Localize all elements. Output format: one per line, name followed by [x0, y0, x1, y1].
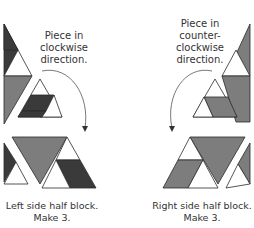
- left-caption: Left side half block. Make 3.: [2, 200, 102, 223]
- right-annotation-line4: direction.: [170, 54, 230, 66]
- right-annotation: Piece in counter- clockwise direction.: [170, 18, 230, 66]
- right-caption: Right side half block. Make 3.: [150, 200, 254, 223]
- right-annotation-line1: Piece in: [170, 18, 230, 30]
- counterclockwise-arrow-head: [169, 126, 175, 132]
- right-caption-line2: Make 3.: [150, 212, 254, 224]
- left-annotation-line2: clockwise: [36, 42, 92, 54]
- right-annotation-line3: clockwise: [170, 42, 230, 54]
- right-caption-line1: Right side half block.: [150, 200, 254, 212]
- left-caption-line2: Make 3.: [2, 212, 102, 224]
- left-annotation-line1: Piece in: [36, 30, 92, 42]
- left-annotation: Piece in clockwise direction.: [36, 30, 92, 66]
- left-annotation-line3: direction.: [36, 54, 92, 66]
- right-annotation-line2: counter-: [170, 30, 230, 42]
- left-caption-line1: Left side half block.: [2, 200, 102, 212]
- clockwise-arrow-head: [82, 126, 88, 132]
